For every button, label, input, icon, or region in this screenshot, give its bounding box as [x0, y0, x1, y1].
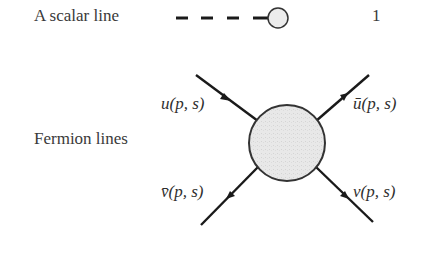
label-v-spinor: v(p, s): [353, 182, 395, 202]
scalar-line-label: A scalar line: [34, 6, 119, 26]
label-vbar-spinor: v̄(p, s): [161, 182, 203, 202]
scalar-line: [176, 8, 288, 28]
label-u-spinor: u(p, s): [161, 94, 204, 114]
fermion-lines-label: Fermion lines: [34, 129, 128, 149]
label-ubar-spinor: ū(p, s): [353, 94, 396, 114]
interaction-blob: [249, 105, 325, 181]
scalar-line-value: 1: [372, 6, 381, 26]
scalar-vertex-circle: [268, 8, 288, 28]
